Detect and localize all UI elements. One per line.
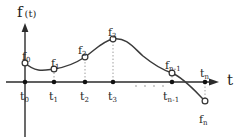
y-axis-arrowhead [22, 23, 29, 32]
x-tick-label-tn-1: tn-1 [163, 87, 179, 104]
axis-dot-t3 [111, 80, 116, 85]
value-label-fn: fn [199, 110, 208, 127]
value-label-f3: f3 [108, 23, 117, 40]
x-tick-label-t3: t3 [108, 87, 117, 104]
leader-lines [54, 40, 205, 100]
value-label-f0: f0 [22, 47, 31, 64]
y-axis-label-f: f [17, 3, 23, 21]
value-label-fn-1: fn-1 [165, 56, 181, 73]
axis-dot-t1 [52, 80, 57, 85]
x-axis-label: t [227, 73, 233, 88]
y-axis-label: f(t) [17, 5, 36, 20]
value-label-f1: f1 [51, 54, 60, 71]
y-axis-label-arg: (t) [25, 8, 37, 19]
axis-dot-t0 [23, 80, 28, 85]
plot-canvas [0, 0, 251, 137]
x-axis-arrowhead [209, 78, 219, 85]
x-tick-label-t1: t1 [49, 87, 58, 104]
x-axis-label-t: t [227, 71, 233, 89]
axis-dot-t2 [83, 80, 88, 85]
function-plot-figure: f(t) t f0 f1 f2 f3 fn-1 fn t0 t1 t2 t3 t… [0, 0, 251, 137]
x-tick-label-tn: tn [200, 64, 209, 81]
axis-ellipsis-dots [135, 85, 164, 87]
axis-dot-tn-1 [170, 80, 175, 85]
value-label-f2: f2 [78, 41, 87, 58]
x-tick-label-t2: t2 [80, 87, 89, 104]
value-marker-fn [202, 98, 208, 104]
x-tick-label-t0: t0 [20, 87, 29, 104]
